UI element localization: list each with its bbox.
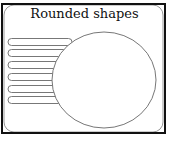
large-ellipse — [52, 32, 156, 128]
diagram-canvas — [0, 0, 169, 141]
diagram-title: Rounded shapes — [0, 6, 169, 21]
pill-shape — [8, 39, 72, 46]
